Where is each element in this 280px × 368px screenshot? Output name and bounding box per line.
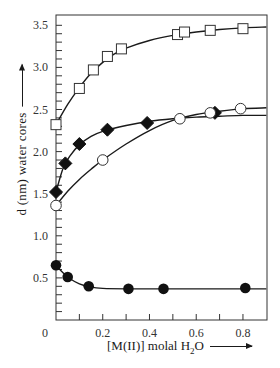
y-tick-label: 1.0: [33, 229, 48, 243]
marker-circle-open: [175, 113, 186, 124]
marker-circle-filled: [51, 260, 62, 271]
marker-circle-filled: [240, 283, 251, 294]
marker-circle-open: [235, 103, 246, 114]
y-tick-label: 2.5: [33, 103, 48, 117]
y-axis-label: d (nm) water cores: [14, 64, 30, 215]
y-tick-label: 0.5: [33, 271, 48, 285]
marker-circle-filled: [62, 272, 73, 283]
marker-square-open: [74, 83, 84, 93]
marker-circle-open: [205, 108, 216, 119]
chart-canvas: 00.20.40.60.80.51.01.52.02.53.03.5: [0, 0, 280, 368]
marker-square-open: [205, 25, 215, 35]
fit-curves: [56, 27, 266, 289]
marker-square-open: [180, 27, 190, 37]
fit-curve: [56, 115, 266, 192]
plot-frame: [56, 15, 267, 320]
marker-circle-filled: [83, 281, 94, 292]
marker-circle-open: [51, 200, 62, 211]
marker-diamond-filled: [59, 157, 72, 170]
marker-diamond-filled: [50, 186, 63, 199]
marker-square-open: [51, 120, 61, 130]
x-tick-label: 0: [42, 326, 48, 340]
x-axis-arrow-icon: [210, 346, 252, 347]
marker-square-open: [116, 44, 126, 54]
x-axis-label-text: [M(II)] molal H2O: [107, 338, 204, 356]
y-axis-arrow-icon: [22, 64, 23, 106]
marker-square-open: [88, 65, 98, 75]
marker-circle-open: [97, 155, 108, 166]
y-axis-label-text: d (nm) water cores: [14, 112, 30, 215]
axis-ticks: 00.20.40.60.80.51.01.52.02.53.03.5: [33, 18, 250, 340]
y-tick-label: 2.0: [33, 145, 48, 159]
marker-square-open: [102, 51, 112, 61]
marker-diamond-filled: [101, 123, 114, 136]
y-tick-label: 3.5: [33, 18, 48, 32]
y-tick-label: 1.5: [33, 187, 48, 201]
marker-circle-filled: [158, 284, 169, 295]
fit-curve: [56, 108, 266, 206]
x-axis-label: [M(II)] molal H2O: [107, 338, 252, 356]
data-markers: [50, 24, 251, 294]
marker-circle-filled: [123, 284, 134, 295]
marker-diamond-filled: [141, 116, 154, 129]
y-tick-label: 3.0: [33, 60, 48, 74]
marker-square-open: [238, 24, 248, 34]
